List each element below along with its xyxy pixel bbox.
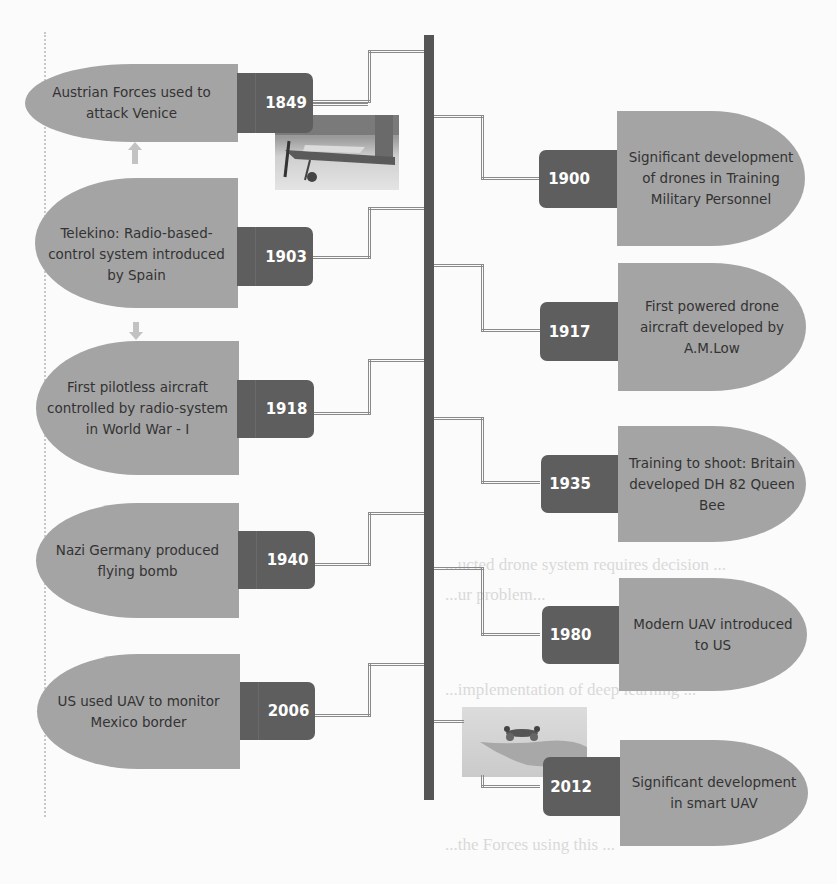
year-badge: 1940 [238, 531, 315, 589]
connector-1849 [313, 100, 371, 103]
connector-1903 [313, 256, 371, 259]
event-label: Nazi Germany produced flying bomb [36, 503, 239, 618]
event-label: Modern UAV introduced to US [619, 578, 807, 691]
background-text: ...ur problem... [445, 585, 546, 605]
year-badge: 2006 [240, 682, 315, 740]
connector-1935 [481, 481, 540, 484]
event-label: Significant development in smart UAV [620, 740, 808, 846]
arrow-down-icon [129, 332, 143, 340]
connector-1940 [368, 512, 371, 566]
connector-1900 [481, 177, 540, 180]
event-label: Significant development of drones in Tra… [617, 111, 805, 246]
connector-1900 [434, 115, 484, 118]
year-badge: 1935 [541, 455, 621, 513]
event-label: First powered drone aircraft developed b… [618, 263, 806, 391]
event-label: Austrian Forces used to attack Venice [25, 64, 238, 142]
event-label: First pilotless aircraft controlled by r… [36, 341, 239, 475]
year-badge: 2012 [543, 757, 621, 816]
arrow-down-icon [133, 322, 139, 332]
background-text: ...the Forces using this ... [445, 835, 615, 855]
connector-1917 [481, 329, 540, 332]
event-label: US used UAV to monitor Mexico border [37, 654, 240, 769]
arrow-up-icon [128, 142, 142, 150]
connector-1903 [368, 207, 424, 210]
connector-1900 [481, 115, 484, 180]
year-badge: 1900 [539, 150, 621, 208]
connector-2006 [368, 663, 424, 666]
connector-1940 [368, 512, 424, 515]
connector-1849 [368, 50, 424, 53]
event-label: Telekino: Radio-based-control system int… [35, 178, 238, 308]
arrow-up-icon [132, 150, 138, 164]
connector-1903 [368, 207, 371, 259]
year-badge: 1903 [237, 227, 313, 286]
connector-2006 [313, 714, 371, 717]
year-badge: 1918 [237, 380, 314, 438]
connector-1849 [368, 50, 371, 103]
connector-2012 [434, 720, 464, 723]
connector-1918 [313, 412, 371, 415]
connector-1935 [481, 417, 484, 484]
connector-1918 [368, 359, 424, 362]
connector-1980 [434, 567, 484, 570]
connector-2012 [481, 785, 540, 788]
connector-2006 [368, 663, 371, 717]
year-badge: 1980 [542, 606, 621, 664]
year-badge: 1917 [540, 302, 621, 361]
connector-1849 [313, 50, 368, 106]
connector-1940 [313, 563, 371, 566]
connector-1917 [481, 264, 484, 332]
background-text: ...ucted drone system requires decision … [445, 555, 726, 575]
year-badge: 1849 [237, 73, 313, 133]
connector-1917 [434, 264, 484, 267]
connector-1918 [368, 359, 371, 415]
event-label: Training to shoot: Britain developed DH … [618, 426, 806, 542]
timeline-spine [424, 35, 434, 800]
connector-1980 [481, 567, 484, 636]
connector-1980 [481, 633, 540, 636]
connector-1935 [434, 417, 484, 420]
